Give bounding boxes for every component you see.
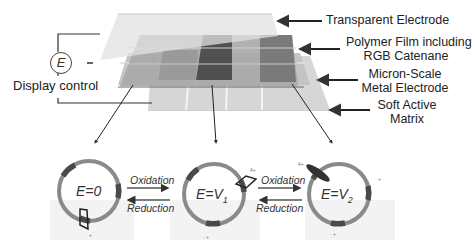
label-active-matrix-line1: Soft Active	[372, 98, 442, 112]
label-active-matrix: Soft Active Matrix	[372, 98, 442, 126]
charge-annotation-ring2-bottom: · +	[330, 231, 336, 237]
charge-annotation-ring2-4plus: 4+	[298, 161, 304, 167]
oxidation-label-1: Oxidation	[130, 174, 174, 186]
label-metal-electrode: Micron-Scale Metal Electrode	[360, 67, 450, 95]
charge-annotation-ring1: · +	[203, 234, 209, 240]
state-label-2-subscript: 2	[348, 195, 353, 205]
label-metal-electrode-line2: Metal Electrode	[360, 81, 450, 95]
state-label-1-prefix: E=V	[196, 186, 223, 202]
state-label-2: E=V2	[321, 186, 353, 205]
label-active-matrix-line2: Matrix	[372, 112, 442, 126]
reduction-label-1: Reduction	[127, 202, 174, 214]
electrochromic-display-diagram: Transparent Electrode Polymer Film inclu…	[0, 0, 475, 252]
label-polymer-film: Polymer Film including RGB Catenane	[346, 35, 466, 63]
voltage-source-icon: E	[50, 52, 72, 74]
label-display-control: Display control	[13, 79, 98, 93]
label-polymer-film-line2: RGB Catenane	[346, 49, 466, 63]
oxidation-label-2: Oxidation	[261, 174, 305, 186]
label-metal-electrode-line1: Micron-Scale	[360, 67, 450, 81]
label-polymer-film-line1: Polymer Film including	[346, 35, 466, 49]
state-label-0: E=0	[76, 183, 101, 199]
charge-annotation-ring1-4plus: 4+	[250, 167, 256, 173]
state-label-2-prefix: E=V	[321, 186, 348, 202]
charge-annotation-ring2-right: · +	[375, 176, 381, 182]
charge-annotation-ring0: +	[89, 232, 92, 238]
reduction-label-2: Reduction	[256, 202, 303, 214]
state-label-1-subscript: 1	[223, 195, 228, 205]
label-transparent-electrode: Transparent Electrode	[326, 13, 449, 27]
state-label-1: E=V1	[196, 186, 228, 205]
